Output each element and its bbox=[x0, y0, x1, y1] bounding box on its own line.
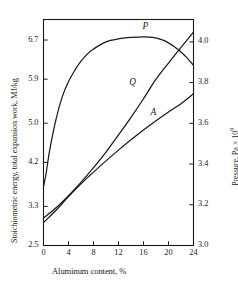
y-axis-right-title: Pressure, Pa × 109 bbox=[229, 128, 238, 186]
x-tick-label-3: 12 bbox=[107, 248, 131, 257]
x-axis-title: Aluminum content, % bbox=[52, 266, 126, 276]
x-tick-label-5: 20 bbox=[157, 248, 181, 257]
curve-label-A: A bbox=[151, 107, 157, 117]
chart-figure: Stoichiometric energy, total expansion w… bbox=[0, 0, 238, 288]
curve-label-Q: Q bbox=[129, 77, 136, 87]
x-tick-label-6: 24 bbox=[182, 248, 206, 257]
y-tick-label-left-2: 4.2 bbox=[8, 157, 39, 166]
y-tick-label-right-1: 3.2 bbox=[198, 199, 208, 208]
y-tick-label-right-4: 3.8 bbox=[198, 77, 208, 86]
y-axis-right-title-exponent: 9 bbox=[229, 128, 235, 131]
y-tick-label-right-2: 3.4 bbox=[198, 159, 208, 168]
y-tick-label-right-3: 3.6 bbox=[198, 118, 208, 127]
y-tick-label-left-4: 5.9 bbox=[8, 74, 39, 83]
y-tick-label-left-5: 6.7 bbox=[8, 35, 39, 44]
x-tick-label-2: 8 bbox=[82, 248, 106, 257]
y-tick-label-right-5: 4.0 bbox=[198, 36, 208, 45]
curve-label-P: P bbox=[142, 21, 148, 31]
x-tick-label-1: 4 bbox=[57, 248, 81, 257]
y-tick-label-left-3: 5.0 bbox=[8, 118, 39, 127]
x-tick-label-0: 0 bbox=[32, 248, 56, 257]
y-tick-label-left-1: 3.3 bbox=[8, 201, 39, 210]
y-axis-right-title-text: Pressure, Pa × 10 bbox=[231, 131, 238, 186]
x-tick-label-4: 16 bbox=[132, 248, 156, 257]
